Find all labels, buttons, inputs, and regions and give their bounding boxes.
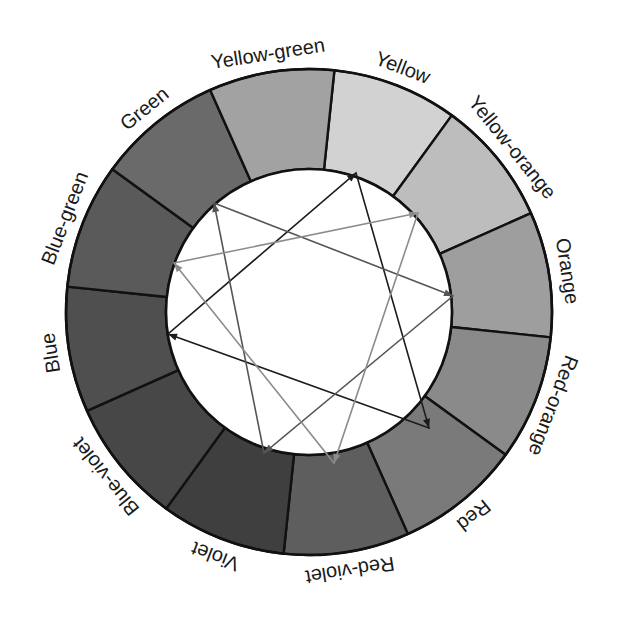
color-wheel-diagram: YellowYellow-orangeOrangeRed-orangeRedRe… xyxy=(0,0,619,622)
label-text-orange: Orange xyxy=(552,236,584,305)
label-text-yellow-green: Yellow-green xyxy=(210,33,327,73)
color-wheel-svg: YellowYellow-orangeOrangeRed-orangeRedRe… xyxy=(0,0,619,622)
label-text-red-violet: Red-violet xyxy=(303,553,396,589)
label-text-blue: Blue xyxy=(36,331,64,374)
